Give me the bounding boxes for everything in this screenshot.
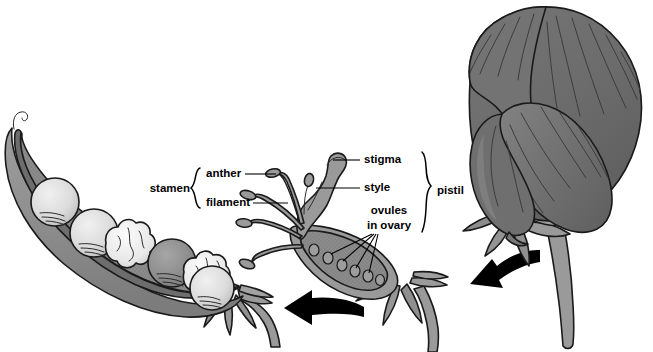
seed-round-3 — [190, 266, 234, 310]
label-stigma: stigma — [364, 153, 402, 165]
label-ovules-line1: ovules — [371, 204, 407, 216]
label-pistil: pistil — [437, 184, 464, 196]
label-style: style — [364, 181, 390, 193]
label-filament: filament — [206, 196, 250, 208]
label-stamen: stamen — [150, 182, 190, 194]
diagram-canvas: stamen anther filament stigma style ovul… — [0, 0, 653, 352]
label-anther: anther — [206, 167, 242, 179]
seed-round-1 — [31, 178, 79, 226]
pea-diagram-svg: stamen anther filament stigma style ovul… — [0, 0, 653, 352]
label-ovules-line2: in ovary — [367, 219, 412, 231]
